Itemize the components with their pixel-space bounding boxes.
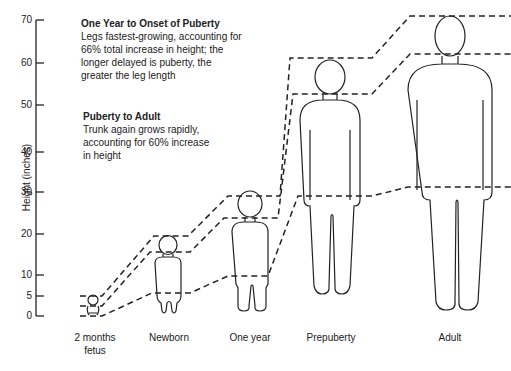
label-line: 2 months bbox=[74, 332, 115, 343]
label-fetus: 2 months fetus bbox=[66, 331, 124, 357]
tick-60: 60 bbox=[8, 57, 32, 68]
crotch-line bbox=[80, 187, 511, 316]
tick-50: 50 bbox=[8, 99, 32, 110]
label-newborn: Newborn bbox=[140, 331, 198, 344]
note-line: in height bbox=[83, 150, 121, 161]
label-line: fetus bbox=[84, 345, 106, 356]
note-line: accounting for 60% increase bbox=[83, 137, 209, 148]
y-axis bbox=[36, 20, 44, 316]
note-line: longer delayed is puberty, the bbox=[81, 57, 211, 68]
figure-one-year bbox=[232, 191, 268, 311]
figure-fetus bbox=[87, 295, 99, 315]
note-title: Puberty to Adult bbox=[83, 111, 160, 122]
note-line: greater the leg length bbox=[81, 70, 176, 81]
y-axis-label: Height (inches) bbox=[21, 138, 32, 218]
figure-newborn bbox=[155, 236, 181, 314]
note-line: Trunk again grows rapidly, bbox=[83, 124, 199, 135]
note-title: One Year to Onset of Puberty bbox=[81, 18, 220, 29]
figure-prepuberty bbox=[300, 60, 360, 294]
tick-70: 70 bbox=[8, 14, 32, 25]
head-line bbox=[80, 54, 511, 306]
tick-0: 0 bbox=[8, 310, 32, 321]
label-prepuberty: Prepuberty bbox=[296, 331, 366, 344]
tick-10: 10 bbox=[8, 269, 32, 280]
note-puberty-onset: One Year to Onset of Puberty Legs fastes… bbox=[81, 17, 242, 82]
note-line: 66% total increase in height; the bbox=[81, 44, 223, 55]
tick-20: 20 bbox=[8, 228, 32, 239]
growth-diagram bbox=[0, 0, 511, 371]
figure-adult bbox=[408, 16, 492, 310]
note-line: Legs fastest-growing, accounting for bbox=[81, 31, 242, 42]
tick-5: 5 bbox=[8, 290, 32, 301]
label-one-year: One year bbox=[220, 331, 280, 344]
label-adult: Adult bbox=[420, 331, 480, 344]
note-puberty-adult: Puberty to Adult Trunk again grows rapid… bbox=[83, 110, 209, 162]
